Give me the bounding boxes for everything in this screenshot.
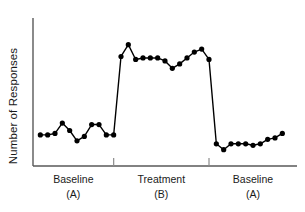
phase-divider-ticks	[114, 158, 209, 166]
data-point	[104, 132, 109, 137]
data-point	[89, 122, 94, 127]
data-point	[199, 46, 204, 51]
data-point	[155, 55, 160, 60]
data-point-markers	[38, 42, 285, 152]
phase-label-baseline-1: Baseline (A)	[33, 172, 114, 212]
phase-condition: (A)	[66, 187, 80, 202]
data-point	[206, 57, 211, 62]
data-point	[74, 138, 79, 143]
data-point	[184, 55, 189, 60]
data-point	[60, 120, 65, 125]
phase-label-baseline-2: Baseline (A)	[209, 172, 297, 212]
data-point	[126, 42, 131, 47]
data-point	[140, 55, 145, 60]
phase-condition: (B)	[154, 187, 168, 202]
phase-label-treatment: Treatment (B)	[114, 172, 209, 212]
data-point	[272, 135, 277, 140]
phase-label-row: Baseline (A) Treatment (B) Baseline (A)	[33, 172, 297, 212]
data-point	[96, 122, 101, 127]
data-point	[192, 49, 197, 54]
data-point	[67, 128, 72, 133]
data-point	[52, 131, 57, 136]
data-point	[148, 55, 153, 60]
data-point	[214, 141, 219, 146]
phase-name: Treatment	[138, 172, 185, 187]
phase-name: Baseline	[53, 172, 93, 187]
data-point	[177, 61, 182, 66]
data-point	[162, 58, 167, 63]
data-point	[118, 54, 123, 59]
data-line	[40, 45, 282, 150]
data-point	[82, 134, 87, 139]
data-point	[45, 132, 50, 137]
data-point	[38, 132, 43, 137]
phase-name: Baseline	[233, 172, 273, 187]
data-point	[133, 57, 138, 62]
data-point	[170, 66, 175, 71]
data-point	[258, 141, 263, 146]
chart-figure: Number of Responses Baseline (A) Treatme…	[0, 0, 305, 212]
data-point	[265, 137, 270, 142]
data-point	[236, 141, 241, 146]
data-point	[243, 141, 248, 146]
data-point	[111, 132, 116, 137]
data-point	[250, 143, 255, 148]
data-point	[228, 141, 233, 146]
data-point	[221, 147, 226, 152]
phase-condition: (A)	[246, 187, 260, 202]
data-point	[280, 131, 285, 136]
